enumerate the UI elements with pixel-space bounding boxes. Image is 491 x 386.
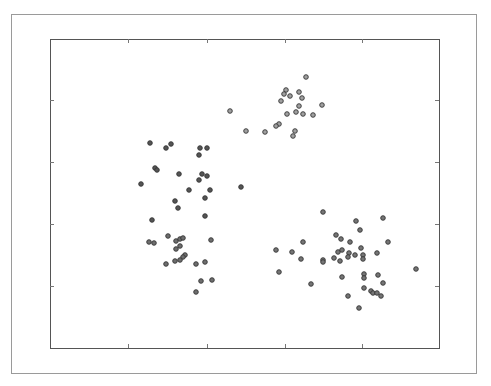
data-point-cluster-right xyxy=(379,294,384,299)
data-point-cluster-upper-left xyxy=(205,146,210,151)
data-point-cluster-top xyxy=(301,112,306,117)
data-point-cluster-right xyxy=(340,248,345,253)
data-point-cluster-upper-left xyxy=(205,174,210,179)
data-point-cluster-lower-left xyxy=(209,238,214,243)
data-point-cluster-upper-left xyxy=(148,141,153,146)
data-point-cluster-upper-left xyxy=(197,153,202,158)
data-point-cluster-lower-left xyxy=(203,260,208,265)
data-point-cluster-right xyxy=(361,257,366,262)
data-point-cluster-upper-left xyxy=(176,206,181,211)
data-point-cluster-top xyxy=(320,103,325,108)
data-point-cluster-right xyxy=(381,281,386,286)
data-point-cluster-lower-left xyxy=(194,262,199,267)
data-point-cluster-right xyxy=(362,276,367,281)
data-point-cluster-right xyxy=(359,246,364,251)
data-point-cluster-upper-left xyxy=(139,182,144,187)
data-point-cluster-lower-left xyxy=(174,247,179,252)
data-point-cluster-top xyxy=(297,90,302,95)
data-point-cluster-upper-left xyxy=(150,218,155,223)
data-point-cluster-right xyxy=(274,248,279,253)
data-point-cluster-right xyxy=(353,253,358,258)
data-point-cluster-top xyxy=(300,96,305,101)
data-point-cluster-right xyxy=(414,267,419,272)
data-point-cluster-upper-left xyxy=(203,214,208,219)
data-point-cluster-upper-left xyxy=(187,188,192,193)
data-point-cluster-right xyxy=(340,275,345,280)
data-point-cluster-upper-left xyxy=(239,185,244,190)
data-point-cluster-upper-left xyxy=(155,168,160,173)
data-point-cluster-right xyxy=(301,240,306,245)
data-point-cluster-top xyxy=(279,99,284,104)
data-point-cluster-right xyxy=(348,240,353,245)
data-point-cluster-top xyxy=(285,112,290,117)
data-point-cluster-upper-left xyxy=(177,172,182,177)
data-point-cluster-right xyxy=(346,255,351,260)
data-point-cluster-upper-left xyxy=(203,196,208,201)
data-point-cluster-upper-left xyxy=(197,178,202,183)
data-point-cluster-top xyxy=(228,109,233,114)
data-point-cluster-lower-left xyxy=(173,259,178,264)
data-point-cluster-right xyxy=(334,233,339,238)
scatter-plot xyxy=(0,0,491,386)
data-point-cluster-lower-left xyxy=(178,244,183,249)
data-point-cluster-right xyxy=(358,228,363,233)
data-point-cluster-lower-left xyxy=(166,234,171,239)
data-point-cluster-lower-left xyxy=(199,279,204,284)
data-point-cluster-right xyxy=(338,259,343,264)
data-point-cluster-right xyxy=(277,270,282,275)
data-point-cluster-lower-left xyxy=(194,290,199,295)
data-point-cluster-top xyxy=(293,129,298,134)
data-point-cluster-lower-left xyxy=(164,262,169,267)
data-point-cluster-right xyxy=(339,237,344,242)
data-point-cluster-right xyxy=(354,219,359,224)
data-point-cluster-top xyxy=(274,124,279,129)
data-point-cluster-right xyxy=(290,250,295,255)
data-point-cluster-top xyxy=(304,75,309,80)
data-point-cluster-top xyxy=(288,94,293,99)
data-point-cluster-top xyxy=(294,110,299,115)
data-point-cluster-right xyxy=(362,286,367,291)
data-point-cluster-top xyxy=(311,113,316,118)
data-point-cluster-top xyxy=(297,104,302,109)
data-point-cluster-right xyxy=(299,257,304,262)
data-point-cluster-upper-left xyxy=(208,188,213,193)
data-point-cluster-right xyxy=(375,291,380,296)
data-point-cluster-right xyxy=(376,273,381,278)
data-point-cluster-lower-left xyxy=(181,236,186,241)
data-point-cluster-lower-left xyxy=(210,278,215,283)
data-point-cluster-right xyxy=(375,251,380,256)
data-point-cluster-right xyxy=(309,282,314,287)
data-point-cluster-upper-left xyxy=(164,146,169,151)
data-point-cluster-lower-left xyxy=(178,258,183,263)
data-point-cluster-upper-left xyxy=(173,199,178,204)
data-point-cluster-upper-left xyxy=(169,142,174,147)
data-point-cluster-right xyxy=(332,256,337,261)
data-point-cluster-lower-left xyxy=(152,241,157,246)
data-point-cluster-top xyxy=(291,134,296,139)
data-point-cluster-right xyxy=(381,216,386,221)
data-point-cluster-right xyxy=(357,306,362,311)
data-point-cluster-top xyxy=(244,129,249,134)
data-point-cluster-top xyxy=(282,92,287,97)
data-point-cluster-right xyxy=(321,260,326,265)
plot-area xyxy=(51,40,440,349)
data-point-cluster-right xyxy=(321,210,326,215)
data-point-cluster-lower-left xyxy=(147,240,152,245)
data-point-cluster-upper-left xyxy=(200,172,205,177)
data-point-cluster-right xyxy=(346,294,351,299)
data-point-cluster-top xyxy=(263,130,268,135)
data-point-cluster-right xyxy=(386,240,391,245)
data-point-cluster-upper-left xyxy=(198,146,203,151)
